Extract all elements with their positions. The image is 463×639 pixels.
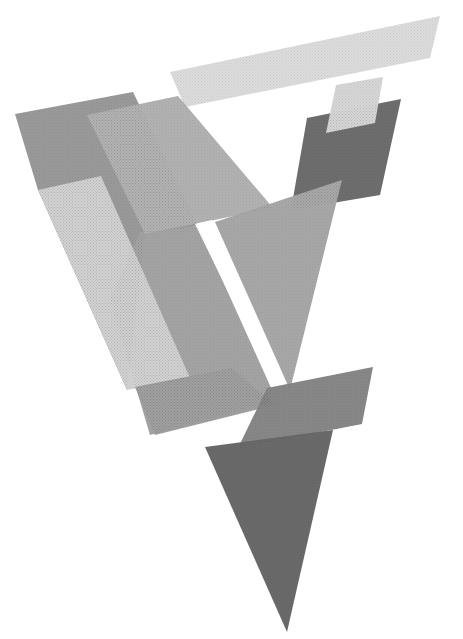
abstract-geometric-artwork xyxy=(0,0,463,639)
